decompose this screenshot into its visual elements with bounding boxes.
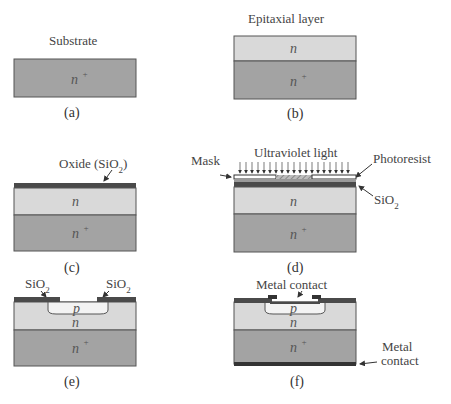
sio2-right-label: SiO2 [106,276,131,295]
caption-b: (b) [287,106,304,122]
caption-a: (a) [64,105,80,121]
n-label: n [290,41,297,56]
svg-text:p: p [289,301,297,316]
svg-text:n: n [72,226,79,241]
caption-c: (c) [64,260,80,276]
oxide-layer [14,183,136,188]
svg-text:n: n [290,340,297,355]
metal-contact-bottom-label-line2: contact [381,353,419,368]
sio2-label: SiO2 [374,192,399,211]
panel-b: Epitaxial layer n n + (b) [234,11,356,122]
panel-f: Metal contact p n n + Metal contact (f) [234,277,419,390]
epitaxial-layer-label: Epitaxial layer [248,11,325,26]
top-metal-pad-left [268,295,277,299]
svg-text:+: + [82,69,88,79]
svg-text:n: n [290,74,297,89]
panel-e: SiO2 SiO2 p n n + (e) [14,276,136,390]
panel-a: Substrate n + (a) [14,33,136,121]
mask-left [234,175,276,179]
caption-e: (e) [64,374,80,390]
mask-label: Mask [191,153,220,168]
mask-right [312,175,356,179]
top-metal-pad-right [312,295,321,299]
svg-text:+: + [301,71,307,81]
metal-contact-bottom-label-line1: Metal [382,339,413,354]
n-plus-label: n [71,72,78,87]
ultraviolet-light-label: Ultraviolet light [254,145,338,160]
photoresist-layer [234,179,356,182]
caption-f: (f) [290,374,304,390]
oxide-right [97,297,136,302]
oxide-left [234,298,272,303]
panel-d: Ultraviolet light Mask Photoresist [191,145,431,276]
pn-junction-fabrication-diagram: Substrate n + (a) Epitaxial layer n n + … [0,0,451,404]
caption-d: (d) [287,260,304,276]
sio2-left-label: SiO2 [25,276,50,295]
photoresist-label: Photoresist [373,151,431,166]
svg-text:n: n [72,315,79,330]
p-label: p [72,301,80,316]
svg-text:n: n [290,315,297,330]
metal-contact-top-label: Metal contact [256,277,327,292]
panel-c: Oxide (SiO2) n n + (c) [14,156,136,276]
oxide-layer [234,182,356,187]
svg-text:+: + [301,337,307,347]
bottom-metal-contact [234,362,356,366]
svg-text:+: + [83,223,89,233]
oxide-right [318,298,356,303]
svg-text:n: n [72,194,79,209]
oxide-label: Oxide (SiO2) [59,156,127,175]
svg-text:n: n [290,227,297,242]
svg-text:n: n [290,194,297,209]
oxide-left [14,297,60,302]
svg-text:n: n [72,341,79,356]
svg-text:+: + [83,337,89,347]
mask-opening [276,175,312,179]
uv-arrows [240,162,348,173]
substrate-label: Substrate [49,33,98,48]
svg-text:+: + [301,224,307,234]
